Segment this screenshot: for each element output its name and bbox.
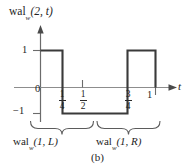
- left-brace-label-args: (1, L): [33, 135, 57, 147]
- fraction-denominator: 2: [75, 102, 91, 112]
- right-brace-label-subscript: w: [112, 144, 117, 151]
- walsh-function-figure: walw(2, t) 1 0: [0, 0, 195, 167]
- right-brace-label-args: (1, R): [116, 135, 141, 147]
- y-axis: [37, 25, 43, 122]
- y-tick-label-one: 1: [22, 45, 27, 56]
- x-tick-label-three-quarters: 3 4: [120, 90, 136, 111]
- fraction-numerator: 1: [54, 90, 70, 100]
- x-tick-label-one: 1: [147, 90, 152, 101]
- y-tick-label-zero: 0: [35, 84, 40, 95]
- left-brace: [31, 121, 94, 135]
- x-tick-label-one-half: 1 2: [75, 90, 91, 111]
- y-tick-label-neg-one: −1: [13, 106, 24, 117]
- right-brace-label: walw(1, R): [96, 136, 141, 150]
- left-brace-label-base: wal: [13, 135, 29, 147]
- left-brace-label: walw(1, L): [13, 136, 58, 150]
- fraction-denominator: 4: [54, 102, 70, 112]
- right-brace-label-base: wal: [96, 135, 112, 147]
- fraction-numerator: 3: [120, 90, 136, 100]
- y-tick-marks: [33, 51, 41, 114]
- x-axis-label: t: [178, 81, 181, 92]
- fraction-numerator: 1: [75, 90, 91, 100]
- right-brace: [97, 121, 160, 135]
- figure-caption: (b): [0, 152, 195, 163]
- x-tick-label-one-quarter: 1 4: [54, 90, 70, 111]
- fraction-denominator: 4: [120, 102, 136, 112]
- left-brace-label-subscript: w: [29, 144, 34, 151]
